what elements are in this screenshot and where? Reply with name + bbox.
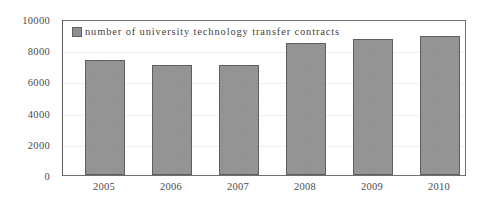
x-tick-label-2010: 2010 <box>428 181 450 192</box>
y-tick-label-8000: 8000 <box>28 46 50 57</box>
gridline-8000 <box>63 52 465 53</box>
bar-2010 <box>420 36 460 175</box>
x-tick-label-2008: 2008 <box>294 181 316 192</box>
bar-2005 <box>85 60 125 175</box>
bar-2007 <box>219 65 259 175</box>
x-axis: 2005 2006 2007 2008 2009 2010 <box>62 181 466 201</box>
y-tick-label-0: 0 <box>44 171 50 182</box>
x-tick-label-2007: 2007 <box>227 181 249 192</box>
y-tick-label-4000: 4000 <box>28 108 50 119</box>
y-tick-label-10000: 10000 <box>22 15 50 26</box>
legend-swatch-icon <box>72 27 82 37</box>
bar-2006 <box>152 65 192 175</box>
x-tick-label-2005: 2005 <box>93 181 115 192</box>
plot-area <box>62 20 466 176</box>
bar-2008 <box>286 43 326 175</box>
x-tick-label-2006: 2006 <box>160 181 182 192</box>
legend-label: number of university technology transfer… <box>85 26 340 37</box>
bar-chart-figure: 10000 8000 6000 4000 2000 0 2005 2006 20… <box>0 0 490 205</box>
y-tick-label-6000: 6000 <box>28 77 50 88</box>
y-axis: 10000 8000 6000 4000 2000 0 <box>0 0 56 205</box>
y-tick-label-2000: 2000 <box>28 139 50 150</box>
bar-2009 <box>353 39 393 175</box>
chart-legend: number of university technology transfer… <box>70 25 342 38</box>
x-tick-label-2009: 2009 <box>361 181 383 192</box>
